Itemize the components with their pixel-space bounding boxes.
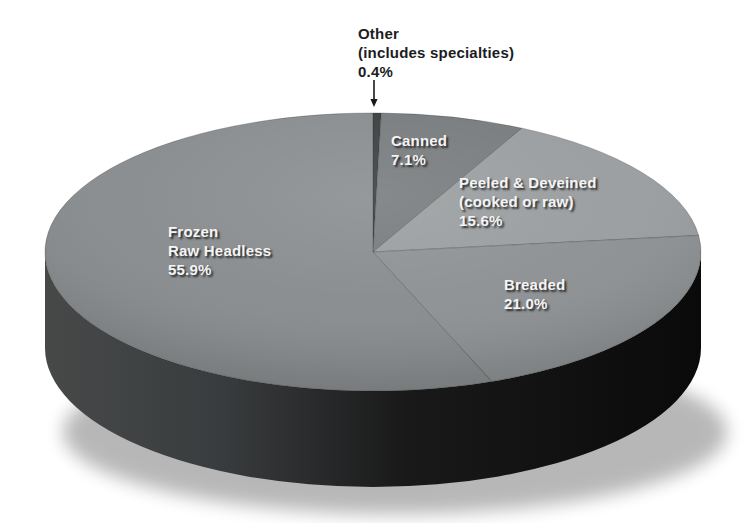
pie-chart-figure: Other(includes specialties)0.4%Canned7.1…	[0, 0, 751, 523]
pie-3d-chart	[0, 0, 751, 523]
other-annotation-arrow	[370, 80, 377, 107]
arrow-head-icon	[370, 99, 377, 107]
pie-slices	[45, 113, 701, 391]
